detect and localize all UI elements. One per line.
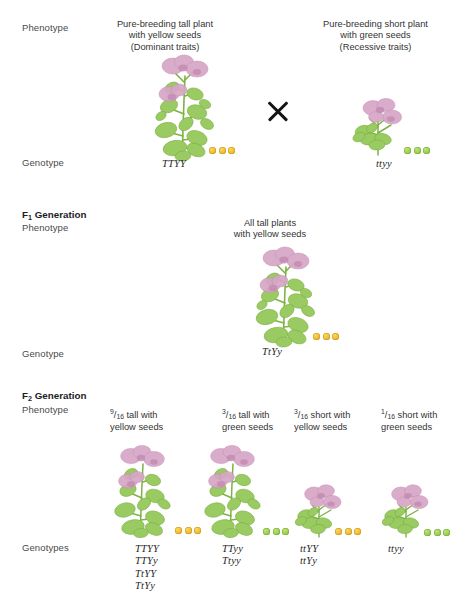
genotype-item: Ttyy [222, 555, 243, 567]
f2-genotypes-label: Genotypes [22, 542, 69, 553]
parent-right-caption: Pure-breeding short plant with green see… [313, 19, 438, 53]
genotype-item: TtYY [135, 568, 159, 580]
seed-yellow [228, 147, 235, 154]
f2-column-4-genotypes: ttyy [388, 543, 404, 555]
f2-column-2-genotypes: TTyy Ttyy [222, 543, 243, 568]
seed-green [414, 147, 421, 154]
f2-column-3-caption-line2: yellow seeds [294, 422, 386, 433]
f2-column-3-fraction: 3/16 [294, 406, 308, 422]
parent-left-plant-tall [139, 52, 231, 162]
genotype-item: ttYy [300, 555, 318, 567]
f1-generation-header: F1 Generation [22, 209, 86, 222]
parent-left-genotype: TTYY [162, 158, 186, 170]
parent-right-genotype: ttyy [376, 158, 392, 170]
f2-phenotype-label: Phenotype [22, 404, 68, 415]
parent-right-caption-line2: with green seeds [313, 30, 438, 41]
f2-header-subscript: 2 [28, 394, 32, 403]
f2-column-1-caption-line1: 9/16 tall with [110, 406, 202, 422]
genotype-item: ttyy [388, 543, 404, 555]
f2-column-3-caption-line1: 3/16 short with [294, 406, 386, 422]
seed-green [273, 528, 280, 535]
seed-yellow [332, 333, 339, 340]
f2-column-2-seed-row [263, 528, 289, 535]
parent-right-seed-row [404, 147, 430, 154]
f2-column-1-genotypes: TTYY TTYy TtYY TtYy [135, 543, 159, 593]
parental-genotype-label: Genotype [22, 157, 64, 168]
parent-left-caption: Pure-breeding tall plant with yellow see… [110, 19, 220, 53]
cross-symbol [265, 98, 291, 124]
f2-header-word: Generation [35, 390, 87, 401]
seed-yellow [209, 147, 216, 154]
parent-left-seed-row [209, 147, 235, 154]
f1-caption-line2: with yellow seeds [215, 229, 325, 240]
seed-yellow [335, 528, 342, 535]
f2-column-3-seed-row [335, 528, 361, 535]
seed-yellow [345, 528, 352, 535]
f1-phenotype-label: Phenotype [22, 222, 68, 233]
f2-generation-header: F2 Generation [22, 390, 86, 403]
parent-right-caption-line3: (Recessive traits) [313, 42, 438, 53]
parent-left-caption-line1: Pure-breeding tall plant [110, 19, 220, 30]
f2-column-1-caption-line2: yellow seeds [110, 422, 202, 433]
f1-header-word: Generation [35, 209, 87, 220]
f1-caption: All tall plants with yellow seeds [215, 218, 325, 241]
genotype-item: ttYY [300, 543, 318, 555]
f2-column-4-caption-line2: green seeds [381, 422, 471, 433]
f2-plant-1-tall [100, 444, 186, 538]
parent-left-caption-line2: with yellow seeds [110, 30, 220, 41]
parental-phenotype-label: Phenotype [22, 22, 68, 33]
seed-green [263, 528, 270, 535]
genotype-item: TtYy [135, 580, 159, 592]
f2-column-3-caption: 3/16 short with yellow seeds [294, 406, 386, 434]
parent-right-caption-line1: Pure-breeding short plant [313, 19, 438, 30]
f1-seed-row [313, 333, 339, 340]
genotype-item: TTYY [135, 543, 159, 555]
genetics-diagram: Phenotype Genotype Pure-breeding tall pl… [0, 0, 471, 596]
seed-yellow [354, 528, 361, 535]
f2-column-3-genotypes: ttYY ttYy [300, 543, 318, 568]
f1-genotype-label: Genotype [22, 348, 64, 359]
seed-yellow [175, 527, 182, 534]
f1-header-subscript: 1 [28, 213, 32, 222]
f2-column-1-caption: 9/16 tall with yellow seeds [110, 406, 202, 434]
f2-plant-2-tall [190, 444, 276, 538]
seed-green [443, 529, 450, 536]
f1-plant-tall [240, 245, 332, 347]
f2-column-2-fraction: 3/16 [222, 406, 236, 422]
f1-caption-line1: All tall plants [215, 218, 325, 229]
seed-yellow [313, 333, 320, 340]
seed-yellow [219, 147, 226, 154]
f2-column-4-fraction: 1/16 [381, 406, 395, 422]
f2-column-4-seed-row [424, 529, 450, 536]
seed-green [424, 529, 431, 536]
f2-column-1-fraction: 9/16 [110, 406, 124, 422]
seed-green [434, 529, 441, 536]
f2-column-4-caption: 1/16 short with green seeds [381, 406, 471, 434]
f1-genotype: TtYy [262, 346, 282, 358]
genotype-item: TTYy [135, 555, 159, 567]
seed-yellow [323, 333, 330, 340]
seed-green [423, 147, 430, 154]
genotype-item: TTyy [222, 543, 243, 555]
seed-green [404, 147, 411, 154]
f2-column-4-caption-line1: 1/16 short with [381, 406, 471, 422]
